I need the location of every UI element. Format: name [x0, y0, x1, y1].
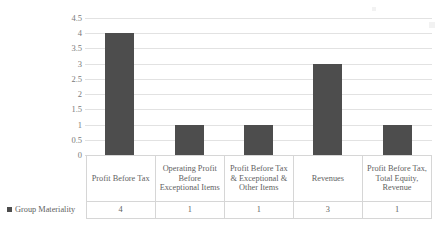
table-cell-value: 4 [86, 202, 155, 219]
table-cell-value: 1 [155, 202, 224, 219]
table-cell-category: Operating Profit Before Exceptional Item… [155, 156, 224, 202]
bar-cell [224, 18, 293, 155]
table-cell-category: Profit Before Tax & Exceptional & Other … [224, 156, 293, 202]
bar-profit-before-tax-total-equity-revenue[interactable] [383, 125, 412, 155]
bar-profit-before-tax[interactable] [105, 33, 134, 155]
bar-operating-profit-before-exceptional-items[interactable] [175, 125, 204, 155]
y-tick-label: 2.5 [71, 75, 82, 84]
square-marker-icon [7, 207, 12, 212]
table-cell-category: Profit Before Tax, Total Equity, Revenue [362, 156, 431, 202]
y-tick-label: 3.5 [71, 44, 82, 53]
y-tick-label: 4 [78, 29, 82, 38]
bar-cell [363, 18, 432, 155]
bar-profit-before-tax-exceptional-other-items[interactable] [244, 125, 273, 155]
plot-area [85, 18, 432, 155]
y-tick-label: 1.5 [71, 105, 82, 114]
bar-cell [293, 18, 362, 155]
bar-cell [85, 18, 154, 155]
bar-series [85, 18, 432, 155]
table-cell-category: Revenues [293, 156, 362, 202]
table-corner-cell [3, 156, 86, 202]
table-cell-category: Profit Before Tax [86, 156, 155, 202]
legend-entry: Group Materiality [3, 202, 86, 219]
y-tick-label: 4.5 [71, 14, 82, 23]
y-axis: 4.5 4 3.5 3 2.5 2 1.5 1 0.5 0 [52, 18, 82, 155]
table-cell-value: 1 [362, 202, 431, 219]
chart-data-table: Profit Before Tax Operating Profit Befor… [3, 155, 432, 219]
table-row-categories: Profit Before Tax Operating Profit Befor… [3, 156, 432, 202]
table-cell-value: 1 [224, 202, 293, 219]
y-tick-label: 3 [78, 59, 82, 68]
bar-cell [154, 18, 223, 155]
y-tick-label: 2 [78, 90, 82, 99]
y-tick-label: 1 [78, 120, 82, 129]
bar-revenues[interactable] [313, 64, 342, 155]
y-tick-label: 0.5 [71, 136, 82, 145]
table-cell-value: 3 [293, 202, 362, 219]
legend-label: Group Materiality [15, 205, 75, 214]
table-row-values: Group Materiality 4 1 1 3 1 [3, 202, 432, 219]
scan-artifact [372, 7, 376, 11]
chart-container: 4.5 4 3.5 3 2.5 2 1.5 1 0.5 0 [0, 0, 445, 237]
